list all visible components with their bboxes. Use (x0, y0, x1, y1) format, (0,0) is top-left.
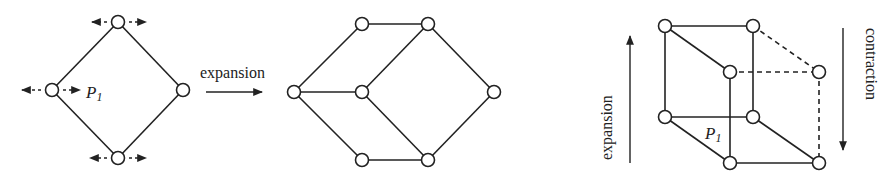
lattice-node (659, 111, 672, 124)
expanded-lattice-diagram (288, 18, 501, 167)
lattice-node (356, 154, 369, 167)
p1-label-cube: P1 (704, 124, 721, 145)
expansion-label: expansion (200, 64, 265, 82)
expansion-transition: expansion (200, 64, 265, 92)
lattice-node (747, 20, 760, 33)
lattice-diagram-figure: P1 expansion expansion contraction (0, 0, 893, 181)
lattice-node (724, 157, 737, 170)
lattice-node (356, 18, 369, 31)
cube-lattice-diagram: expansion contraction P1 (598, 20, 880, 170)
expansion-vertical-label: expansion (598, 95, 616, 160)
lattice-node (813, 66, 826, 79)
lattice-node (813, 157, 826, 170)
lattice-node (356, 86, 369, 99)
lattice-node (288, 86, 301, 99)
square-lattice-diagram: P1 (22, 16, 190, 165)
lattice-node (112, 16, 125, 29)
lattice-node (422, 18, 435, 31)
lattice-node (488, 86, 501, 99)
lattice-node (177, 84, 190, 97)
lattice-node (659, 20, 672, 33)
contraction-vertical-label: contraction (863, 28, 880, 100)
lattice-node (724, 66, 737, 79)
lattice-node (112, 152, 125, 165)
p1-label: P1 (85, 83, 102, 104)
lattice-node (747, 111, 760, 124)
lattice-node (422, 154, 435, 167)
lattice-node-p1 (46, 84, 59, 97)
